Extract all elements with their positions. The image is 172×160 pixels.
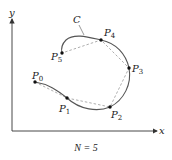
curve-label: C <box>73 14 81 25</box>
caption: N = 5 <box>73 142 97 153</box>
point-p1 <box>65 96 68 99</box>
chord-polyline <box>35 40 129 107</box>
label-p1: P1 <box>58 103 70 116</box>
point-p5 <box>60 51 63 54</box>
curve-label-leader <box>79 25 84 35</box>
x-axis-label: x <box>159 125 165 136</box>
label-p0: P0 <box>31 70 43 83</box>
label-p4: P4 <box>103 27 116 40</box>
label-p3: P3 <box>131 63 143 76</box>
point-p4 <box>99 38 102 41</box>
label-p2: P2 <box>110 109 122 122</box>
y-axis-label: y <box>8 7 15 18</box>
curve-c <box>35 36 130 109</box>
point-p3 <box>127 66 130 69</box>
curve-approximation-diagram: y x C P0 P1 P2 P3 P4 P5 N = 5 <box>0 0 172 160</box>
